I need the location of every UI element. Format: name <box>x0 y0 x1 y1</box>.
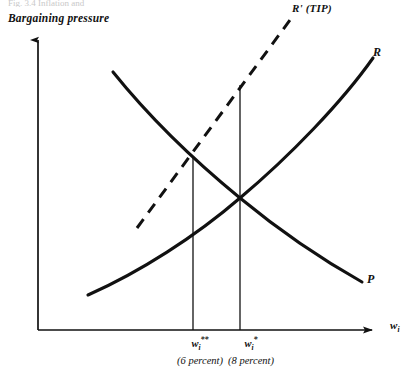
tick-symbol-w-star: wi* <box>196 333 306 354</box>
curve-r-prime-tip-label: R' (TIP) <box>292 2 332 14</box>
tick-label-w-star: wi* (8 percent) <box>196 333 306 367</box>
curve-r-label: R <box>373 45 381 60</box>
x-axis-label-base: w <box>390 319 398 331</box>
curve-p <box>113 72 362 282</box>
x-axis-label: wi <box>390 319 400 334</box>
bargaining-pressure-figure: Fig. 3.4 Inflation and Bargaining pressu… <box>0 0 418 373</box>
diagram-canvas <box>0 0 418 373</box>
y-axis-label: Bargaining pressure <box>8 12 109 24</box>
tick-sup: * <box>254 335 258 344</box>
tick-note-eight-percent: (8 percent) <box>196 354 306 367</box>
curve-p-label: P <box>367 272 375 287</box>
x-axis-label-sub: i <box>398 325 400 334</box>
